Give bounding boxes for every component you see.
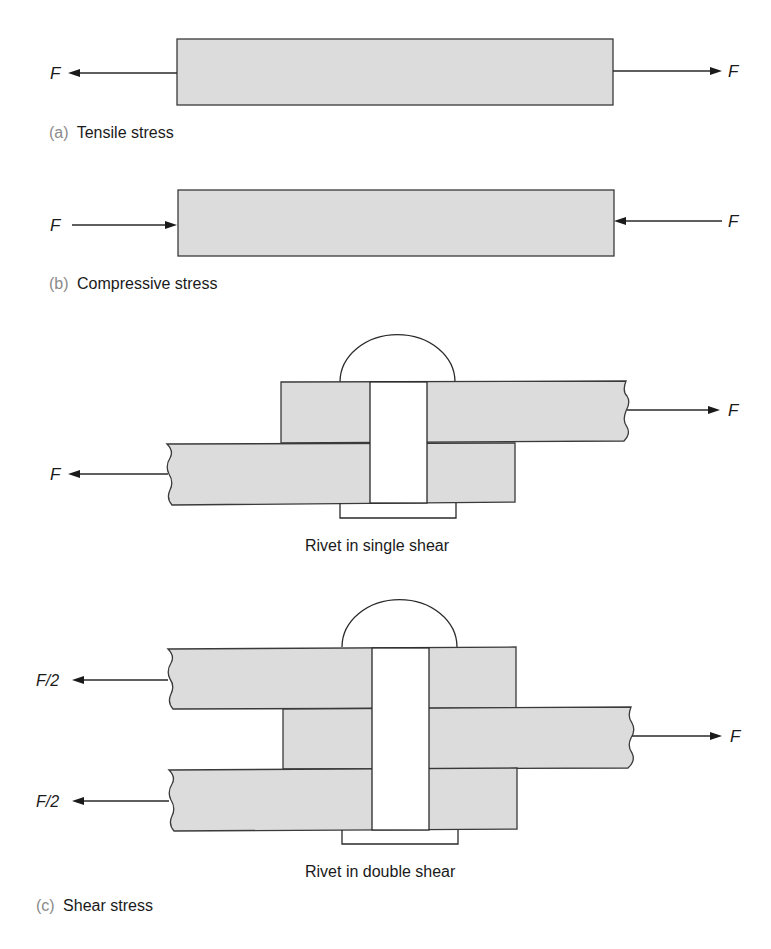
single-shear-left-force-label: F <box>50 465 62 484</box>
arrow-right-icon <box>710 732 722 740</box>
arrow-left-icon <box>72 676 84 684</box>
tensile-left-force-label: F <box>50 64 62 83</box>
arrow-left-icon <box>68 470 80 478</box>
arrow-left-icon <box>68 69 80 77</box>
compressive-panel: F F (b) Compressive stress <box>49 190 740 292</box>
single-shear-bottom-plate <box>167 443 515 505</box>
rivet-head <box>342 600 457 647</box>
rivet-tail <box>342 830 458 844</box>
tensile-caption-text: Tensile stress <box>77 124 174 141</box>
compressive-caption-text: Compressive stress <box>77 275 217 292</box>
single-shear-top-plate <box>281 381 629 443</box>
shear-caption-letter: (c) <box>36 897 55 914</box>
double-shear-panel: F/2 F/2 F Rivet in double shear <box>36 600 742 880</box>
arrow-left-icon <box>72 797 84 805</box>
double-shear-top-left-force-label: F/2 <box>36 672 59 689</box>
double-shear-label: Rivet in double shear <box>305 863 456 880</box>
compressive-caption-letter: (b) <box>49 275 69 292</box>
double-shear-right-force-label: F <box>730 727 742 746</box>
arrow-right-icon <box>708 406 720 414</box>
compressive-caption: (b) Compressive stress <box>49 275 218 292</box>
tensile-caption-letter: (a) <box>49 124 69 141</box>
double-shear-top-plate <box>168 647 516 709</box>
tensile-caption: (a) Tensile stress <box>49 124 174 141</box>
compressive-left-force-label: F <box>50 216 62 235</box>
tensile-right-force-label: F <box>728 62 740 81</box>
stress-diagram: F F (a) Tensile stress F F (b) Compressi… <box>0 0 771 949</box>
double-shear-bottom-left-force-label: F/2 <box>36 793 59 810</box>
rivet-head <box>340 335 455 382</box>
arrow-right-icon <box>710 67 722 75</box>
double-shear-bottom-plate <box>169 768 517 831</box>
arrow-right-icon <box>165 221 177 229</box>
tensile-bar <box>177 39 613 105</box>
rivet-tail <box>340 503 456 518</box>
double-shear-middle-plate <box>283 707 634 769</box>
single-shear-panel: F F Rivet in single shear <box>50 335 740 554</box>
shear-caption: (c) Shear stress <box>36 897 153 914</box>
tensile-panel: F F (a) Tensile stress <box>49 39 740 141</box>
single-shear-right-force-label: F <box>728 401 740 420</box>
single-shear-rivet <box>370 382 427 503</box>
shear-caption-text: Shear stress <box>63 897 153 914</box>
compressive-right-force-label: F <box>728 212 740 231</box>
double-shear-rivet <box>372 648 429 830</box>
compressive-bar <box>178 190 614 256</box>
arrow-left-icon <box>614 217 626 225</box>
single-shear-label: Rivet in single shear <box>305 537 450 554</box>
